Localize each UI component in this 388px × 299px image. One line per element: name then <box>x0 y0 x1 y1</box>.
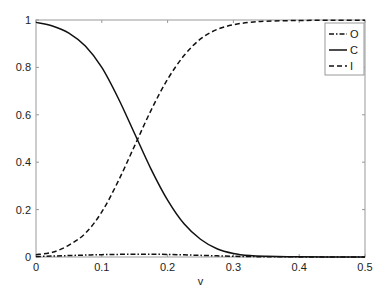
x-tick-label: 0.5 <box>357 261 372 273</box>
plot-area: 00.10.20.30.40.5 00.20.40.60.81 <box>16 14 373 273</box>
legend-c-label: C <box>350 44 358 56</box>
x-tick-label: 0.2 <box>160 261 175 273</box>
y-tick-label: 0.4 <box>16 156 31 168</box>
series-i-line <box>36 20 365 254</box>
y-tick-label: 0.8 <box>16 61 31 73</box>
plot-frame <box>36 20 365 257</box>
line-chart: 00.10.20.30.40.5 00.20.40.60.81 v OCI <box>0 0 388 299</box>
x-tick-label: 0.4 <box>292 261 307 273</box>
series-c-line <box>36 22 365 257</box>
y-tick-label: 1 <box>25 14 31 26</box>
legend: OCI <box>325 23 364 75</box>
y-tick-label: 0.6 <box>16 109 31 121</box>
series-lines <box>36 20 365 257</box>
x-tick-label: 0 <box>33 261 39 273</box>
x-axis-label: v <box>198 275 204 287</box>
y-tick-label: 0.2 <box>16 204 31 216</box>
legend-o-label: O <box>350 28 359 40</box>
x-tick-label: 0.1 <box>94 261 109 273</box>
y-tick-label: 0 <box>25 251 31 263</box>
y-axis: 00.20.40.60.81 <box>16 14 365 263</box>
x-tick-label: 0.3 <box>226 261 241 273</box>
legend-i-label: I <box>350 60 353 72</box>
